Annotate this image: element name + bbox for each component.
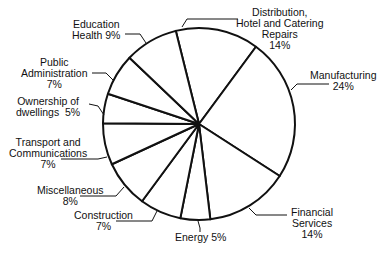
label-transport: Transport and Communications 7% (9, 137, 87, 170)
leader-education (125, 34, 146, 43)
label-public: Public Administration 7% (21, 57, 88, 90)
label-education: Education Health 9% (72, 19, 120, 41)
leader-public (92, 73, 113, 80)
label-manufacturing: Manufacturing 24% (310, 70, 377, 92)
leader-ownership (89, 104, 104, 115)
label-construction: Construction 7% (74, 210, 133, 232)
leader-financial (249, 208, 287, 215)
pie-slices (103, 28, 295, 220)
label-financial: Financial Services 14% (291, 207, 333, 240)
label-ownership: Ownership of dwellings 5% (16, 96, 80, 118)
pie-chart: Distribution, Hotel and Catering Repairs… (0, 0, 384, 254)
label-distribution: Distribution, Hotel and Catering Repairs… (236, 7, 324, 51)
label-energy: Energy 5% (175, 232, 226, 243)
leader-distribution (182, 19, 238, 27)
label-miscellaneous: Miscellaneous 8% (37, 185, 104, 207)
